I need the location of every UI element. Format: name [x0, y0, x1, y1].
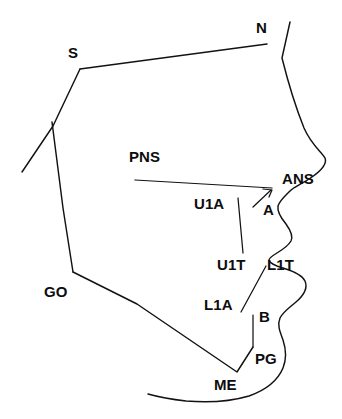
tracing-canvas — [0, 0, 342, 419]
landmark-label-posterior-nasal-spine: PNS — [129, 149, 160, 164]
landmark-label-anterior-nasal-spine: ANS — [282, 171, 314, 186]
landmark-label-pogonion: PG — [255, 351, 277, 366]
landmark-label-lower-incisor-tip: L1T — [267, 257, 294, 272]
landmark-label-b-point: B — [259, 309, 270, 324]
landmark-label-menton: ME — [214, 377, 237, 392]
sella-to-articulare-limb — [22, 69, 80, 172]
mandibular-lower-border — [73, 272, 253, 372]
landmark-label-sella: S — [68, 45, 78, 60]
landmark-label-gonion: GO — [44, 284, 68, 299]
outline-group — [22, 22, 325, 402]
upper-incisor-long-axis — [238, 198, 243, 253]
soft-tissue-facial-profile — [148, 22, 325, 402]
landmark-label-nasion: N — [256, 20, 267, 35]
palatal-plane-pns-to-ans — [135, 180, 272, 188]
landmark-label-lower-incisor-apex: L1A — [204, 297, 233, 312]
sella-nasion-line-and-cranial-base — [80, 44, 267, 69]
landmark-label-a-point: A — [263, 202, 274, 217]
cephalometric-tracing-figure: SNPNSANSU1AAU1TL1TGOL1ABPGME — [0, 0, 342, 419]
landmark-label-upper-incisor-tip: U1T — [217, 257, 246, 272]
landmark-label-upper-incisor-apex: U1A — [194, 196, 224, 211]
ramus-posterior-border — [52, 122, 73, 272]
